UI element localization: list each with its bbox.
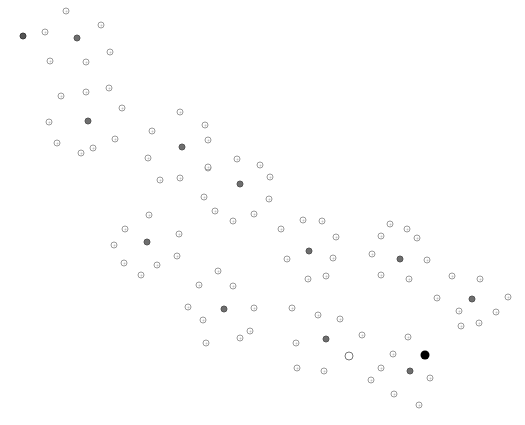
graph-node[interactable]	[333, 234, 340, 241]
graph-node[interactable]	[337, 316, 344, 323]
graph-node[interactable]	[145, 155, 152, 162]
graph-node[interactable]	[284, 256, 291, 263]
graph-node[interactable]	[111, 242, 118, 249]
graph-node[interactable]	[98, 22, 105, 29]
graph-node[interactable]	[149, 128, 156, 135]
cluster-hub-node[interactable]	[221, 306, 228, 313]
graph-node[interactable]	[112, 136, 119, 143]
graph-node[interactable]	[456, 308, 463, 315]
graph-node[interactable]	[305, 276, 312, 283]
graph-node[interactable]	[247, 328, 254, 335]
graph-node[interactable]	[146, 212, 153, 219]
graph-node[interactable]	[185, 304, 192, 311]
graph-node[interactable]	[476, 320, 483, 327]
graph-node[interactable]	[278, 226, 285, 233]
graph-node[interactable]	[315, 312, 322, 319]
graph-node[interactable]	[300, 217, 307, 224]
graph-node[interactable]	[267, 174, 274, 181]
graph-node[interactable]	[330, 255, 337, 262]
graph-node[interactable]	[416, 402, 423, 409]
graph-node[interactable]	[319, 218, 326, 225]
graph-node[interactable]	[294, 365, 301, 372]
cluster-hub-node[interactable]	[323, 336, 330, 343]
graph-node[interactable]	[177, 109, 184, 116]
graph-node[interactable]	[174, 253, 181, 260]
graph-node[interactable]	[427, 375, 434, 382]
graph-node[interactable]	[83, 59, 90, 66]
graph-node[interactable]	[176, 231, 183, 238]
graph-node[interactable]	[434, 295, 441, 302]
graph-node[interactable]	[202, 122, 209, 129]
graph-node[interactable]	[477, 276, 484, 283]
graph-node[interactable]	[78, 150, 85, 157]
graph-node[interactable]	[234, 156, 241, 163]
graph-node[interactable]	[251, 211, 258, 218]
graph-node[interactable]	[391, 391, 398, 398]
cluster-hub-node[interactable]	[179, 144, 186, 151]
graph-node[interactable]	[378, 365, 385, 372]
graph-node[interactable]	[414, 235, 421, 242]
graph-node[interactable]	[378, 272, 385, 279]
graph-node[interactable]	[157, 177, 164, 184]
graph-node[interactable]	[230, 283, 237, 290]
graph-node[interactable]	[138, 272, 145, 279]
graph-node[interactable]	[230, 218, 237, 225]
graph-node[interactable]	[200, 317, 207, 324]
graph-node[interactable]	[205, 137, 212, 144]
cluster-hub-node[interactable]	[306, 248, 313, 255]
graph-node[interactable]	[212, 208, 219, 215]
graph-node[interactable]	[323, 273, 330, 280]
graph-node[interactable]	[493, 309, 500, 316]
graph-node[interactable]	[121, 260, 128, 267]
graph-node[interactable]	[289, 305, 296, 312]
graph-node[interactable]	[205, 164, 212, 171]
cluster-hub-node[interactable]	[237, 181, 244, 188]
graph-node[interactable]	[368, 377, 375, 384]
graph-node[interactable]	[321, 368, 328, 375]
graph-node[interactable]	[63, 8, 70, 15]
graph-node[interactable]	[203, 340, 210, 347]
graph-node[interactable]	[201, 194, 208, 201]
graph-node[interactable]	[42, 29, 49, 36]
graph-node[interactable]	[122, 226, 129, 233]
graph-node[interactable]	[119, 105, 126, 112]
graph-node-dark[interactable]	[20, 33, 27, 40]
graph-node[interactable]	[505, 294, 512, 301]
graph-node[interactable]	[404, 226, 411, 233]
graph-node[interactable]	[107, 49, 114, 56]
graph-node[interactable]	[83, 89, 90, 96]
graph-node[interactable]	[369, 251, 376, 258]
graph-node[interactable]	[257, 162, 264, 169]
graph-node[interactable]	[424, 257, 431, 264]
graph-node[interactable]	[405, 334, 412, 341]
cluster-hub-node[interactable]	[74, 35, 81, 42]
cluster-hub-node[interactable]	[397, 256, 404, 263]
cluster-hub-node[interactable]	[144, 239, 151, 246]
graph-node[interactable]	[90, 145, 97, 152]
graph-node[interactable]	[58, 93, 65, 100]
graph-node[interactable]	[293, 340, 300, 347]
graph-node[interactable]	[390, 351, 397, 358]
graph-node[interactable]	[54, 140, 61, 147]
graph-node[interactable]	[387, 221, 394, 228]
selected-node[interactable]	[421, 351, 430, 360]
graph-node[interactable]	[106, 85, 113, 92]
cluster-hub-node[interactable]	[85, 118, 92, 125]
graph-node[interactable]	[46, 119, 53, 126]
graph-node[interactable]	[154, 262, 161, 269]
graph-node[interactable]	[378, 233, 385, 240]
graph-node[interactable]	[237, 335, 244, 342]
cluster-hub-node[interactable]	[407, 368, 414, 375]
graph-node[interactable]	[177, 175, 184, 182]
graph-node[interactable]	[215, 268, 222, 275]
graph-node[interactable]	[449, 273, 456, 280]
graph-node[interactable]	[406, 276, 413, 283]
graph-node[interactable]	[359, 332, 366, 339]
graph-node[interactable]	[47, 58, 54, 65]
graph-node[interactable]	[266, 196, 273, 203]
graph-node[interactable]	[458, 323, 465, 330]
graph-node-ring[interactable]	[345, 352, 354, 361]
graph-node[interactable]	[196, 282, 203, 289]
graph-node[interactable]	[251, 305, 258, 312]
cluster-hub-node[interactable]	[469, 296, 476, 303]
